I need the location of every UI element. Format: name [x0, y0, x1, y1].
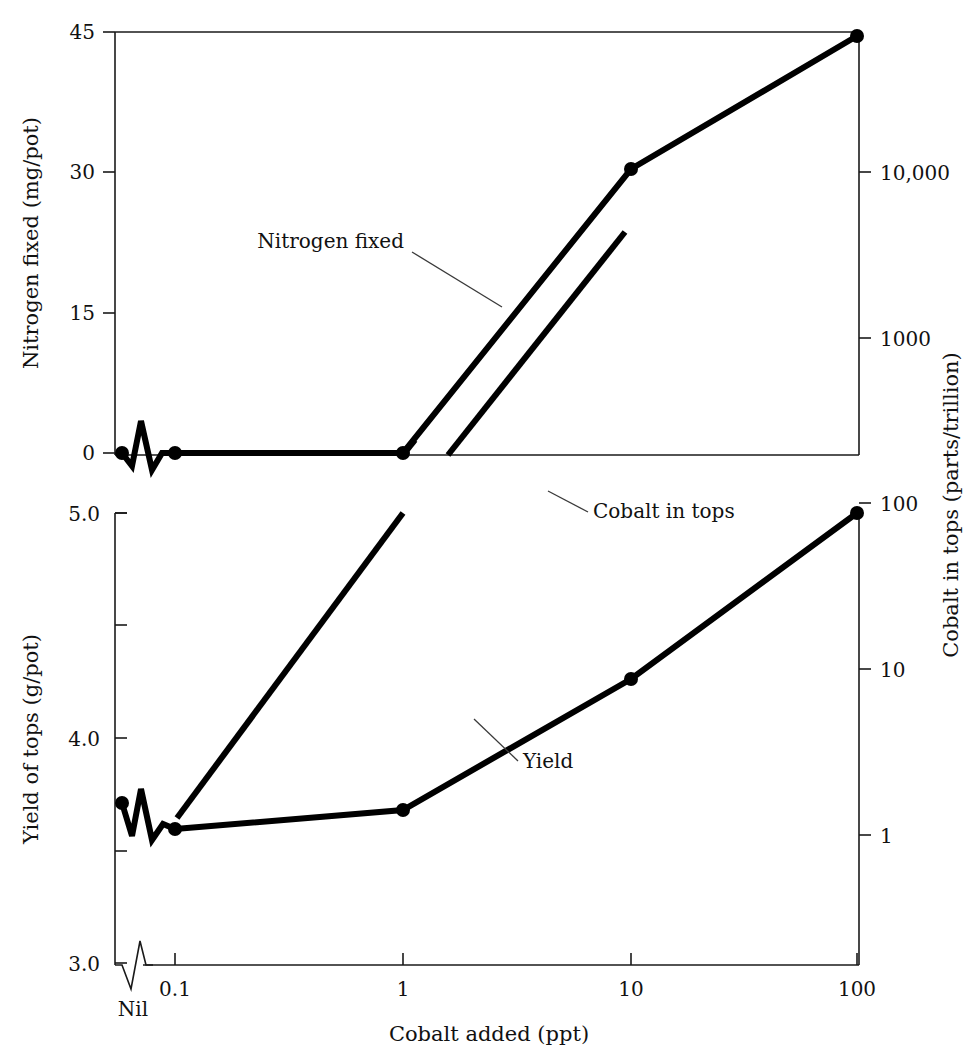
- yield-tick-3: 3.0: [68, 952, 100, 976]
- cobalt-axis-title: Cobalt in tops (parts/trillion): [939, 352, 963, 658]
- data-point: [396, 803, 410, 817]
- data-point: [115, 446, 129, 460]
- nitrogen-tick-15: 15: [70, 301, 95, 325]
- yield-axis-title: Yield of tops (g/pot): [19, 634, 43, 845]
- nitrogen-tick-45: 45: [70, 20, 95, 44]
- cobalt-tick-10: 10: [880, 658, 905, 682]
- data-point: [624, 672, 638, 686]
- chart-canvas: 45 30 15 0 Nitrogen fixed (mg/pot) 5.0: [0, 0, 976, 1058]
- x-tick-nil: Nil: [118, 997, 148, 1021]
- cobalt-tick-1: 1: [880, 824, 893, 848]
- figure-container: 45 30 15 0 Nitrogen fixed (mg/pot) 5.0: [0, 0, 976, 1058]
- x-axis-title: Cobalt added (ppt): [389, 1022, 589, 1046]
- nitrogen-tick-0: 0: [82, 441, 95, 465]
- data-point: [168, 822, 182, 836]
- x-tick-10: 10: [618, 977, 643, 1001]
- yield-tick-5: 5.0: [68, 502, 100, 526]
- data-point: [850, 506, 864, 520]
- annotation-cobalt-in-tops: Cobalt in tops: [593, 499, 735, 523]
- data-point: [115, 796, 129, 810]
- data-point: [168, 446, 182, 460]
- x-tick-0-1: 0.1: [159, 977, 191, 1001]
- yield-tick-4: 4.0: [68, 727, 100, 751]
- cobalt-tick-1000: 1000: [880, 327, 931, 351]
- x-tick-100: 100: [838, 977, 876, 1001]
- annotation-nitrogen-fixed: Nitrogen fixed: [257, 229, 404, 253]
- annotation-yield: Yield: [522, 749, 573, 773]
- data-point: [850, 29, 864, 43]
- x-tick-1: 1: [397, 977, 410, 1001]
- data-point: [624, 162, 638, 176]
- nitrogen-axis-title: Nitrogen fixed (mg/pot): [19, 117, 43, 369]
- cobalt-tick-10000: 10,000: [880, 161, 950, 185]
- cobalt-tick-100: 100: [880, 492, 918, 516]
- nitrogen-tick-30: 30: [70, 160, 95, 184]
- figure-background: [0, 0, 976, 1058]
